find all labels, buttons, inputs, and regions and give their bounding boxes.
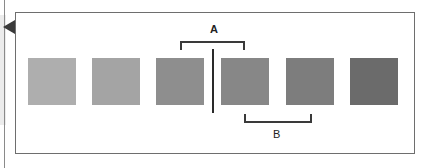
swatch-5 <box>286 58 334 105</box>
collapse-arrow-icon[interactable] <box>3 20 15 34</box>
divider-line <box>212 49 214 113</box>
swatch-4 <box>221 58 269 105</box>
swatch-3 <box>156 58 204 105</box>
swatch-2 <box>92 58 140 105</box>
swatch-6 <box>350 58 398 105</box>
bracket-b <box>244 114 312 123</box>
swatch-1 <box>28 58 76 105</box>
bracket-a-label: A <box>210 24 218 35</box>
bracket-b-label: B <box>273 129 280 140</box>
bracket-a <box>180 41 245 50</box>
